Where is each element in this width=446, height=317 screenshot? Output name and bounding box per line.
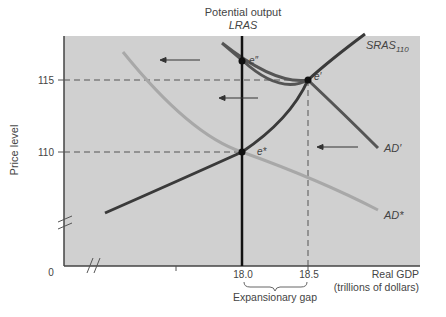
label-e-double-prime: e″	[249, 55, 259, 66]
y-tick-115: 115	[38, 75, 54, 86]
label-e-prime: e′	[314, 71, 323, 82]
y-axis-label: Price level	[8, 125, 20, 176]
y-tick-110: 110	[38, 147, 54, 158]
label-ad-prime: AD′	[383, 142, 402, 154]
chart: 115 110 Price level 0 18.0 18.5 Real GDP…	[0, 0, 446, 317]
point-e-double-prime	[239, 58, 246, 65]
x-tick-0: 0	[48, 267, 54, 278]
gap-label: Expansionary gap	[233, 291, 317, 303]
label-ad-star: AD*	[383, 209, 404, 221]
x-tick-18-0: 18.0	[233, 269, 253, 280]
x-axis-label-line2: (trillions of dollars)	[334, 281, 419, 293]
title-line2: LRAS	[229, 19, 258, 31]
point-e-star	[239, 149, 246, 156]
x-axis-label-line1: Real GDP	[372, 268, 419, 280]
point-e-prime	[305, 77, 312, 84]
x-tick-18-5: 18.5	[299, 269, 319, 280]
gap-brace	[244, 282, 307, 291]
label-e-star: e*	[257, 146, 268, 157]
title-line1: Potential output	[205, 6, 281, 18]
